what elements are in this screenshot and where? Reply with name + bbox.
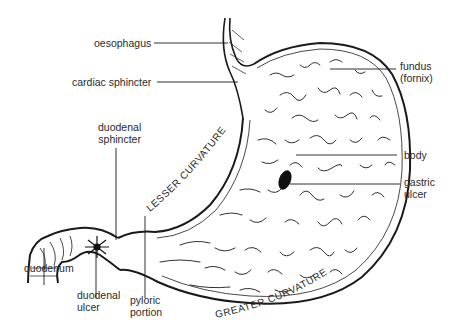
greater-curvature-label: GREATER CURVATURE	[214, 266, 329, 320]
label-duodenal-sphincter: duodenal sphincter	[98, 121, 141, 145]
label-duodenal-sphincter-line1: duodenal	[98, 121, 141, 133]
label-duodenal-sphincter-line2: sphincter	[98, 133, 141, 145]
label-fundus-line1: fundus	[400, 60, 433, 72]
label-gastric-ulcer-line1: gastric	[404, 176, 435, 188]
lesser-curvature-label: LESSER CURVATURE	[144, 124, 228, 213]
label-body: body	[404, 149, 427, 161]
oesophagus-tube	[223, 18, 254, 118]
label-pyloric-line1: pyloric	[130, 294, 162, 306]
duodenum-shape	[28, 228, 120, 283]
label-pyloric-portion: pyloric portion	[130, 294, 162, 318]
label-fundus-line2: (fornix)	[400, 72, 433, 84]
duodenal-ulcer-mark	[85, 236, 109, 258]
label-fundus: fundus (fornix)	[400, 60, 433, 84]
label-pyloric-line2: portion	[130, 306, 162, 318]
label-cardiac-sphincter: cardiac sphincter	[72, 76, 151, 88]
label-duodenal-ulcer: duodenal ulcer	[77, 289, 120, 313]
gastric-ulcer-spot	[276, 169, 294, 192]
label-duodenal-ulcer-line2: ulcer	[77, 301, 120, 313]
mucosal-folds	[160, 60, 395, 293]
label-duodenum: duodenum	[24, 262, 74, 274]
stomach-diagram: LESSER CURVATURE GREATER CURVATURE oesop…	[0, 0, 456, 333]
label-gastric-ulcer: gastric ulcer	[404, 176, 435, 200]
label-oesophagus: oesophagus	[94, 37, 151, 49]
label-gastric-ulcer-line2: ulcer	[404, 188, 435, 200]
stomach-illustration: LESSER CURVATURE GREATER CURVATURE	[0, 0, 456, 333]
label-duodenal-ulcer-line1: duodenal	[77, 289, 120, 301]
